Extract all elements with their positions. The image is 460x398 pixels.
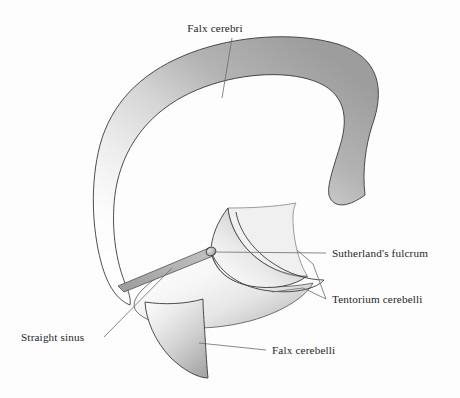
label-straight-sinus: Straight sinus bbox=[21, 331, 84, 343]
label-falx-cerebri: Falx cerebri bbox=[187, 22, 243, 34]
tentorium-cerebelli-upper-leaf bbox=[211, 203, 308, 288]
falx-cerebelli-shape bbox=[145, 299, 208, 378]
label-sutherlands-fulcrum: Sutherland's fulcrum bbox=[332, 247, 428, 259]
label-tentorium-cerebelli: Tentorium cerebelli bbox=[332, 293, 423, 305]
leader-falx-cerebelli bbox=[199, 343, 266, 350]
figure-canvas: Falx cerebri Sutherland's fulcrum Tentor… bbox=[0, 0, 460, 398]
label-falx-cerebelli: Falx cerebelli bbox=[272, 344, 335, 356]
anatomy-diagram: Falx cerebri Sutherland's fulcrum Tentor… bbox=[0, 0, 460, 398]
